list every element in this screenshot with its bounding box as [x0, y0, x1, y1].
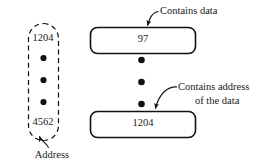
cell-ellipsis-dot [138, 57, 145, 64]
contains-address-annotation: Contains addressof the data [178, 82, 249, 106]
contains-address-leader-line [156, 87, 178, 109]
contains-address-line1: Contains address [178, 81, 249, 92]
address-column-bottom-value: 4562 [28, 117, 58, 128]
cell-ellipsis-dot [138, 101, 145, 108]
contains-data-annotation: Contains data [160, 6, 217, 17]
address-ellipsis-dot [40, 77, 46, 83]
data-cell-value: 97 [90, 34, 196, 45]
address-column-top-value: 1204 [28, 33, 58, 44]
address-ellipsis-dot [40, 55, 46, 61]
address-caption: Address [22, 150, 82, 161]
contains-data-leader-line [148, 12, 159, 26]
cell-ellipsis-dot [138, 79, 145, 86]
pointer-cell-value: 1204 [90, 118, 196, 129]
pointer-memory-diagram: 1204 4562 Address 97 1204 Contains data … [0, 0, 266, 167]
address-leader-line [40, 137, 49, 149]
address-ellipsis-dot [40, 99, 46, 105]
contains-address-line2: of the data [178, 96, 249, 107]
